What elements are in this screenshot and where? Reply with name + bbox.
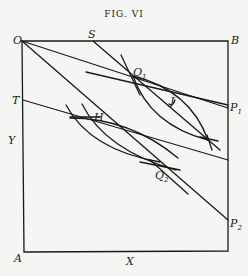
box-diagram: [0, 0, 248, 276]
label-t: T: [12, 95, 19, 106]
label-x: X: [126, 256, 134, 267]
label-q2: Q2: [155, 170, 169, 184]
line-s-q1: [93, 41, 220, 150]
label-j: J: [170, 96, 174, 107]
line-q1-p1: [86, 72, 228, 105]
label-p2: P2: [230, 218, 242, 232]
label-o: O: [13, 35, 22, 46]
label-q1: Q1: [133, 67, 147, 81]
h-curve-1: [66, 105, 160, 162]
label-h: H: [94, 112, 104, 123]
label-s: S: [88, 29, 96, 40]
label-p1: P1: [230, 102, 242, 116]
label-a: A: [14, 253, 22, 264]
label-b: B: [231, 35, 239, 46]
figure-vi: FIG. VI: [0, 0, 248, 276]
box-outline: [22, 41, 228, 252]
label-y: Y: [8, 135, 15, 146]
